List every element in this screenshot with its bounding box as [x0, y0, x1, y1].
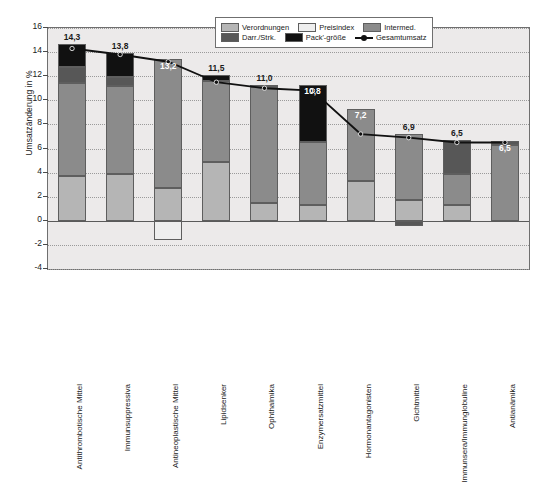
legend-swatch-icon	[221, 33, 239, 42]
x-axis-label: Antianämika	[508, 384, 517, 486]
y-tick-label: 2	[14, 190, 42, 200]
legend-label: Gesamtumsatz	[376, 33, 426, 42]
y-tick-label: -2	[14, 238, 42, 248]
bar-value-label: 6,5	[485, 143, 525, 153]
legend-line-icon	[355, 34, 373, 42]
x-axis-label: Antineoplastische Mittel	[171, 384, 180, 486]
bar-value-label: 10,8	[293, 86, 333, 96]
y-tick-mark	[43, 196, 48, 197]
y-tick-label: 14	[14, 45, 42, 55]
legend-item: Intermed.	[363, 23, 416, 32]
legend-item: Verordnungen	[221, 23, 289, 32]
y-tick-mark	[43, 123, 48, 124]
y-tick-mark	[43, 148, 48, 149]
y-tick-label: 10	[14, 93, 42, 103]
y-tick-mark	[43, 268, 48, 269]
x-axis-label: Hormonantagonisten	[364, 384, 373, 486]
legend-label: Intermed.	[384, 23, 416, 32]
plot-area: 14,313,813,211,511,010,87,26,96,56,5	[47, 27, 530, 270]
y-tick-mark	[43, 99, 48, 100]
bar-value-label: 6,9	[389, 122, 429, 132]
y-tick-mark	[43, 172, 48, 173]
bar-value-label: 11,5	[196, 63, 236, 73]
bar-value-label: 13,8	[100, 41, 140, 51]
legend-label: Verordnungen	[242, 23, 289, 32]
legend-row-top: VerordnungenPreisindexIntermed.	[221, 23, 426, 32]
legend-swatch-icon	[221, 23, 239, 32]
y-tick-mark	[43, 27, 48, 28]
bar-value-label: 14,3	[52, 32, 92, 42]
x-axis-label: Gichtmittel	[412, 384, 421, 486]
bar-value-label: 11,0	[244, 73, 284, 83]
y-tick-mark	[43, 220, 48, 221]
y-tick-label: 8	[14, 117, 42, 127]
legend-swatch-icon	[298, 23, 316, 32]
chart-legend: VerordnungenPreisindexIntermed. Darr./St…	[215, 17, 433, 48]
bar-value-label: 13,2	[148, 61, 188, 71]
legend-swatch-icon	[285, 33, 303, 42]
legend-row-bottom: Darr./Strk.Pack'-größeGesamtumsatz	[221, 33, 426, 42]
y-tick-label: 0	[14, 214, 42, 224]
y-tick-mark	[43, 244, 48, 245]
legend-swatch-icon	[363, 23, 381, 32]
y-tick-mark	[43, 75, 48, 76]
x-axis-label: Immunsuppressiva	[123, 384, 132, 486]
legend-label: Pack'-größe	[306, 33, 346, 42]
y-tick-label: 12	[14, 69, 42, 79]
legend-item: Darr./Strk.	[221, 33, 276, 42]
y-tick-label: 6	[14, 142, 42, 152]
legend-item: Preisindex	[298, 23, 354, 32]
x-axis-labels: Antithrombotische MittelImmunsuppressiva…	[47, 274, 530, 386]
bar-value-label: 7,2	[341, 110, 381, 120]
legend-label: Preisindex	[319, 23, 354, 32]
x-axis-label: Antithrombotische Mittel	[75, 384, 84, 486]
x-axis-label: Enzymersatzmittel	[316, 384, 325, 486]
legend-item: Gesamtumsatz	[355, 33, 426, 42]
y-tick-label: 16	[14, 21, 42, 31]
legend-label: Darr./Strk.	[242, 33, 276, 42]
x-axis-label: Lipidsenker	[219, 384, 228, 486]
bar-value-label: 6,5	[437, 128, 477, 138]
y-tick-label: -4	[14, 262, 42, 272]
y-tick-label: 4	[14, 166, 42, 176]
y-tick-mark	[43, 51, 48, 52]
x-axis-label: Ophthalmika	[267, 384, 276, 486]
gesamtumsatz-line	[48, 28, 531, 271]
x-axis-label: Immunsera/Immunglobuline	[460, 384, 469, 486]
legend-item: Pack'-größe	[285, 33, 346, 42]
